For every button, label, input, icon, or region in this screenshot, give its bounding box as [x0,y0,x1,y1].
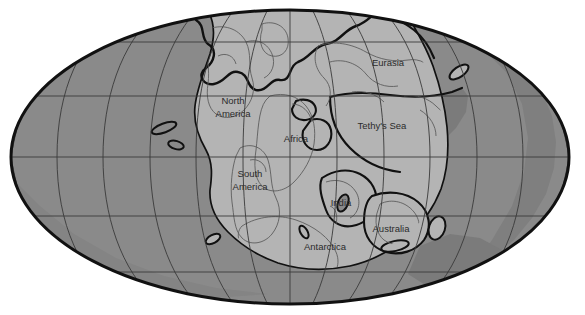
world-map-svg: Eurasia North America Africa Tethy's Sea… [0,0,585,315]
label-india: India [331,197,352,208]
label-south-america-1: South [238,168,263,179]
copyright-notice: © 2015 Cengage Learning® [574,309,584,315]
label-australia: Australia [373,223,411,234]
label-eurasia: Eurasia [372,57,405,68]
label-antarctica: Antarctica [304,241,347,252]
label-north-america-2: America [216,108,252,119]
label-tethys-sea: Tethy's Sea [358,120,408,131]
label-africa: Africa [284,133,309,144]
label-south-america-2: America [233,181,269,192]
label-north-america-1: North [221,95,244,106]
pangaea-map-figure: Eurasia North America Africa Tethy's Sea… [0,0,585,315]
